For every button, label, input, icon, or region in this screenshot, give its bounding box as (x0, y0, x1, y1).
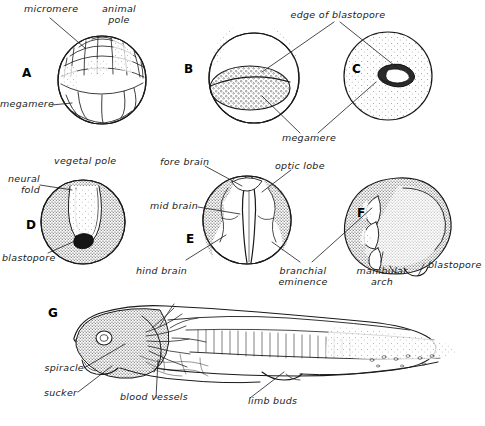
label-blood-vessels: blood vessels (120, 392, 188, 403)
label-manibular-arch: manibular arch (348, 266, 416, 287)
panel-e-brain (203, 176, 291, 264)
panel-a-blastula (58, 36, 146, 124)
panel-g-tadpole (74, 304, 460, 383)
label-blastopore-f: blastopore (428, 260, 482, 271)
label-sucker: sucker (44, 388, 77, 399)
panel-letter-g: G (48, 306, 58, 320)
label-vegetal-pole: vegetal pole (54, 156, 116, 167)
label-edge-of-blastopore: edge of blastopore (272, 10, 404, 21)
panel-letter-b: B (184, 62, 194, 76)
label-mid-brain: mid brain (140, 201, 198, 212)
panel-c-late-gastrula (344, 32, 432, 127)
label-megamere-a: megamere (0, 99, 50, 110)
label-fore-brain: fore brain (160, 157, 209, 168)
label-neural-fold: neural fold (0, 174, 40, 195)
panel-letter-f: F (357, 206, 366, 220)
label-animal-pole: animal pole (92, 4, 146, 25)
label-blastopore-d: blastopore (2, 253, 56, 264)
label-micromere: micromere (24, 4, 78, 15)
panel-letter-d: D (26, 218, 36, 232)
label-optic-lobe: optic lobe (275, 161, 325, 172)
label-limb-buds: limb buds (248, 396, 297, 407)
figure-frog-development: A B C D E F G micromere animal pole mega… (0, 0, 485, 426)
panel-letter-a: A (22, 66, 32, 80)
panel-letter-e: E (186, 232, 195, 246)
label-branchial-eminence: branchial eminence (272, 266, 334, 287)
label-megamere-bc: megamere (264, 133, 354, 144)
panel-letter-c: C (352, 62, 361, 76)
label-spiracle: spiracle (26, 363, 84, 374)
label-hind-brain: hind brain (136, 266, 187, 277)
panel-b-gastrula (209, 26, 299, 123)
